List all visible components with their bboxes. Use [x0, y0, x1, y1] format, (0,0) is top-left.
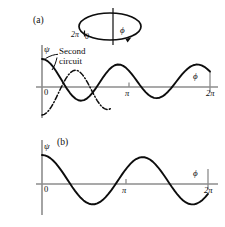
panel-b-tick-pi-label: π	[122, 186, 126, 195]
panel-a-tick-2pi-label: 2π	[206, 89, 215, 98]
panel-a-x-axis-label: ϕ	[193, 72, 198, 81]
panel-a-y-axis-label: ψ	[44, 45, 50, 54]
panel-b-y-axis-label: ψ	[44, 142, 50, 151]
panel-a-wave-second-circuit	[42, 70, 112, 115]
loop-start-label: 2π	[71, 31, 79, 39]
panel-b-origin-label: 0	[44, 185, 48, 194]
panel-a-origin-label: 0	[44, 88, 48, 97]
panel-a-tick-pi-label: π	[125, 89, 129, 98]
second-circuit-annotation-line2: circuit	[59, 57, 82, 66]
panel-b-group	[36, 140, 218, 215]
second-circuit-annotation-line1: Second	[59, 47, 86, 56]
panel-b-wave-solid	[42, 155, 208, 204]
loop-angle-label: ϕ	[120, 26, 125, 35]
second-circuit-leader-line	[46, 54, 59, 58]
panel-b-tick-2pi-label: 2π	[204, 186, 213, 195]
figure-container: (a) ψ ϕ 0 π 2π Second circuit 2π 0 ϕ (b)…	[0, 0, 225, 227]
loop-zero-label: 0	[85, 33, 89, 41]
figure-canvas	[0, 0, 225, 227]
panel-b-label: (b)	[57, 138, 68, 148]
panel-a-label: (a)	[33, 16, 44, 26]
panel-b-x-axis-label: ϕ	[193, 169, 198, 178]
